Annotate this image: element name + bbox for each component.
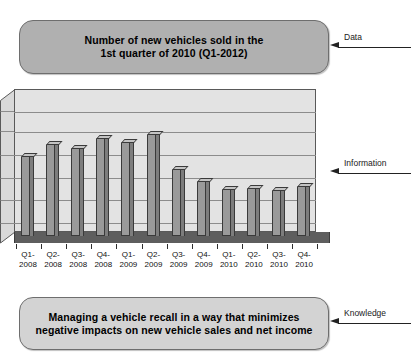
x-axis-label-quarter: Q1- bbox=[14, 250, 42, 260]
x-axis-label-year: 2009 bbox=[114, 260, 142, 270]
bar-side-face bbox=[130, 142, 134, 236]
bar-side-face bbox=[181, 169, 185, 236]
x-axis-label-quarter: Q2- bbox=[39, 250, 67, 260]
x-axis-label-year: 2008 bbox=[89, 260, 117, 270]
x-axis-label: Q3-2008 bbox=[64, 250, 92, 270]
bar-q2-2010 bbox=[247, 185, 260, 236]
x-axis-label-year: 2010 bbox=[265, 260, 293, 270]
bar-front-face bbox=[297, 186, 306, 236]
bar-front-face bbox=[222, 189, 231, 236]
bar-q4-2009 bbox=[197, 178, 210, 236]
bar-q4-2008 bbox=[96, 135, 109, 236]
bar-side-face bbox=[231, 189, 235, 236]
annotation-data-label: Data bbox=[344, 32, 362, 42]
bar-q1-2009 bbox=[121, 139, 134, 236]
bar-side-face bbox=[30, 156, 34, 236]
x-axis-label-quarter: Q1- bbox=[114, 250, 142, 260]
x-axis-label: Q1-2008 bbox=[14, 250, 42, 270]
axis-tick bbox=[66, 244, 67, 249]
axis-tick bbox=[91, 244, 92, 249]
arrow-shaft bbox=[338, 323, 411, 324]
bar-side-face bbox=[206, 181, 210, 236]
x-axis-label-quarter: Q4- bbox=[89, 250, 117, 260]
x-axis-label-quarter: Q3- bbox=[64, 250, 92, 260]
bar-q3-2009 bbox=[172, 166, 185, 236]
x-axis-label: Q2-2009 bbox=[140, 250, 168, 270]
x-axis-label: Q4-2009 bbox=[190, 250, 218, 270]
data-box: Number of new vehicles sold in the 1st q… bbox=[19, 20, 329, 74]
axis-tick bbox=[167, 244, 168, 249]
bar-front-face bbox=[272, 190, 281, 236]
chart-plot-area bbox=[14, 89, 316, 232]
data-box-text: Number of new vehicles sold in the 1st q… bbox=[84, 34, 263, 60]
arrow-shaft bbox=[338, 47, 411, 48]
axis-tick bbox=[267, 244, 268, 249]
x-axis-label-quarter: Q1- bbox=[215, 250, 243, 260]
arrow-shaft bbox=[338, 173, 411, 174]
gridline-1 bbox=[14, 223, 316, 224]
bar-front-face bbox=[71, 148, 80, 236]
gridline-2 bbox=[14, 200, 316, 201]
bar-side-face bbox=[156, 134, 160, 236]
data-box-line-2: 1st quarter of 2010 (Q1-2012) bbox=[84, 47, 263, 60]
axis-tick bbox=[292, 244, 293, 249]
bar-side-face bbox=[306, 186, 310, 236]
bar-front-face bbox=[121, 142, 130, 236]
gridline-3 bbox=[14, 178, 316, 179]
x-axis-label-quarter: Q3- bbox=[265, 250, 293, 260]
bar-q1-2008 bbox=[21, 153, 34, 236]
bar-q2-2008 bbox=[46, 141, 59, 236]
bar-q2-2009 bbox=[147, 131, 160, 236]
annotation-knowledge-label: Knowledge bbox=[344, 308, 386, 318]
bar-side-face bbox=[256, 188, 260, 236]
gridline-4 bbox=[14, 155, 316, 156]
x-axis-label-quarter: Q4- bbox=[290, 250, 318, 260]
bar-front-face bbox=[96, 138, 105, 236]
knowledge-box-line-2: negative impacts on new vehicle sales an… bbox=[35, 324, 312, 337]
x-axis-label-quarter: Q3- bbox=[165, 250, 193, 260]
bar-top-face bbox=[172, 166, 189, 170]
bar-front-face bbox=[247, 188, 256, 236]
bar-front-face bbox=[46, 144, 55, 236]
infographic-canvas: Number of new vehicles sold in the 1st q… bbox=[0, 0, 419, 360]
x-axis-label-year: 2010 bbox=[215, 260, 243, 270]
gridline-5 bbox=[14, 132, 316, 133]
axis-tick bbox=[16, 244, 17, 249]
axis-tick bbox=[116, 244, 117, 249]
bar-side-face bbox=[80, 148, 84, 236]
axis-tick bbox=[242, 244, 243, 249]
x-axis-label: Q3-2010 bbox=[265, 250, 293, 270]
bar-front-face bbox=[21, 156, 30, 236]
bar-front-face bbox=[147, 134, 156, 236]
bar-top-face bbox=[147, 131, 164, 135]
bar-front-face bbox=[197, 181, 206, 236]
x-axis-label: Q2-2008 bbox=[39, 250, 67, 270]
axis-tick bbox=[142, 244, 143, 249]
x-axis-label-year: 2010 bbox=[240, 260, 268, 270]
axis-tick bbox=[192, 244, 193, 249]
x-axis-label-year: 2010 bbox=[290, 260, 318, 270]
bar-side-face bbox=[105, 138, 109, 236]
knowledge-box-text: Managing a vehicle recall in a way that … bbox=[35, 311, 312, 337]
x-axis-label-quarter: Q4- bbox=[190, 250, 218, 260]
data-box-line-1: Number of new vehicles sold in the bbox=[84, 34, 263, 47]
gridline-6 bbox=[14, 112, 316, 113]
chart-left-wall bbox=[0, 89, 15, 243]
annotation-information-label: Information bbox=[344, 158, 387, 168]
bar-q1-2010 bbox=[222, 186, 235, 236]
x-axis-label: Q2-2010 bbox=[240, 250, 268, 270]
bar-q3-2010 bbox=[272, 187, 285, 236]
knowledge-box-line-1: Managing a vehicle recall in a way that … bbox=[35, 311, 312, 324]
bar-front-face bbox=[172, 169, 181, 236]
x-axis-label-year: 2009 bbox=[190, 260, 218, 270]
x-axis-label-year: 2009 bbox=[140, 260, 168, 270]
knowledge-box: Managing a vehicle recall in a way that … bbox=[19, 297, 329, 350]
x-axis-label-year: 2009 bbox=[165, 260, 193, 270]
bar-side-face bbox=[281, 190, 285, 236]
bar-q4-2010 bbox=[297, 183, 310, 236]
axis-tick bbox=[41, 244, 42, 249]
x-axis-label-quarter: Q2- bbox=[140, 250, 168, 260]
x-axis-label: Q1-2009 bbox=[114, 250, 142, 270]
x-axis-label-quarter: Q2- bbox=[240, 250, 268, 260]
axis-tick bbox=[317, 244, 318, 249]
